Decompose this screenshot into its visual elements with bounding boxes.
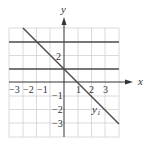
curve-label-y1: y1 — [91, 103, 100, 117]
y-tick: −3 — [52, 118, 63, 129]
x-tick: −2 — [23, 84, 34, 95]
y-axis-arrow-icon — [62, 17, 67, 25]
y-tick: 2 — [56, 51, 61, 62]
x-tick: −3 — [9, 84, 20, 95]
x-axis-label: x — [137, 75, 143, 87]
y-tick: −2 — [52, 104, 63, 115]
x-tick: 3 — [103, 84, 108, 95]
axes — [9, 24, 130, 137]
graph: y x −3 −2 −1 1 2 3 2 −1 −2 −3 y1 — [0, 0, 149, 144]
y-tick: −1 — [52, 90, 63, 101]
y-axis-label: y — [60, 3, 66, 15]
x-tick: 1 — [76, 84, 81, 95]
x-tick: 2 — [89, 84, 94, 95]
x-tick: −1 — [37, 84, 48, 95]
x-axis-arrow-icon — [125, 80, 133, 85]
